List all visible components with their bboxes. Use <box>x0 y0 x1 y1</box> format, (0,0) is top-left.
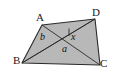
angle-label-a: a <box>62 44 67 54</box>
geometry-figure-screenshot: A D C B b x a <box>0 0 121 81</box>
angle-label-b: b <box>40 32 45 42</box>
vertex-label-d: D <box>92 7 100 18</box>
quadrilateral-abcd-shape <box>22 19 100 65</box>
vertex-label-a: A <box>36 12 44 23</box>
vertex-label-c: C <box>100 58 107 69</box>
vertex-label-b: B <box>13 55 20 66</box>
angle-label-x: x <box>71 32 75 42</box>
